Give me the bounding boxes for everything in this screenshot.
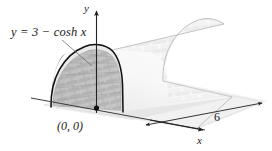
origin-label: (0, 0) — [57, 120, 83, 132]
equation-label: y = 3 − cosh x — [11, 26, 87, 39]
vault-interior — [51, 50, 121, 111]
arch-tunnel-illustration — [0, 0, 272, 151]
x-axis-label: x — [197, 135, 202, 146]
y-axis-label: y — [84, 3, 89, 14]
figure-container: y = 3 − cosh x (0, 0) y x 6 — [0, 0, 272, 151]
origin-point-marker — [94, 105, 99, 110]
depth-dimension-label: 6 — [214, 111, 220, 123]
